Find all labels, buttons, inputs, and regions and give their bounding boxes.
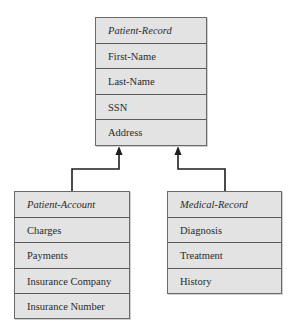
connector-patient-account-to-patient-record (72, 154, 119, 191)
attribute-payments: Payments (15, 243, 129, 269)
attribute-charges: Charges (15, 218, 129, 244)
attribute-history: History (168, 269, 281, 295)
class-box-medical-record: Medical-Record Diagnosis Treatment Histo… (167, 191, 282, 294)
attribute-insurance-company: Insurance Company (15, 269, 129, 295)
class-box-patient-record: Patient-Record First-Name Last-Name SSN … (95, 17, 207, 146)
attribute-address: Address (96, 120, 206, 146)
connector-medical-record-to-patient-record (178, 154, 225, 191)
class-name: Medical-Record (168, 192, 281, 218)
attribute-first-name: First-Name (96, 44, 206, 70)
attribute-diagnosis: Diagnosis (168, 218, 281, 244)
attribute-last-name: Last-Name (96, 69, 206, 95)
arrowhead-icon (175, 146, 182, 155)
arrowhead-icon (116, 146, 123, 155)
attribute-insurance-number: Insurance Number (15, 294, 129, 320)
class-name: Patient-Account (15, 192, 129, 218)
attribute-treatment: Treatment (168, 243, 281, 269)
class-name: Patient-Record (96, 18, 206, 44)
class-box-patient-account: Patient-Account Charges Payments Insuran… (14, 191, 130, 319)
attribute-ssn: SSN (96, 95, 206, 121)
